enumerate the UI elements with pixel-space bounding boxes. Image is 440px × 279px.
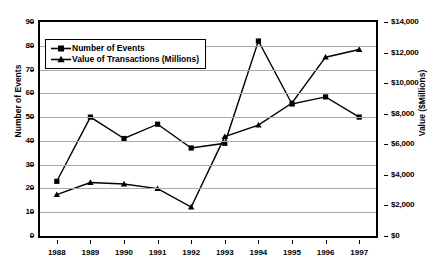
x-axis-tick-label: 1990	[115, 248, 133, 257]
y-axis-right-tick-mark	[384, 236, 388, 237]
x-axis-tick-label: 1993	[216, 248, 234, 257]
legend-item-number-of-events: Number of Events	[50, 43, 199, 54]
legend-item-value-of-transactions: Value of Transactions (Millions)	[50, 54, 199, 65]
x-axis-tick-label: 1996	[317, 248, 335, 257]
gridline	[40, 165, 376, 166]
y-axis-right-tick-mark	[384, 22, 388, 23]
data-point-marker	[255, 122, 261, 128]
x-axis-tick-mark	[124, 240, 125, 244]
data-point-marker	[323, 94, 328, 99]
y-axis-left-tick-mark	[30, 22, 34, 23]
x-axis-tick-mark	[326, 240, 327, 244]
y-axis-right-tick-mark	[384, 114, 388, 115]
x-axis-tick-mark	[158, 240, 159, 244]
y-axis-right-tick-label: $6,000	[391, 140, 414, 148]
square-marker-icon	[50, 43, 72, 54]
series-line-triangle	[57, 50, 359, 208]
y-axis-left-tick-mark	[30, 236, 34, 237]
x-axis-ticks: 1988198919901991199219931994199519961997	[38, 244, 378, 258]
gridline	[40, 212, 376, 213]
y-axis-right-tick-label: $0	[391, 232, 400, 240]
y-axis-left-tick-mark	[30, 46, 34, 47]
y-axis-right-tick-mark	[384, 83, 388, 84]
y-axis-right-tick-mark	[384, 205, 388, 206]
y-axis-right-tick-label: $8,000	[391, 110, 414, 118]
chart-legend: Number of Events Value of Transactions (…	[45, 39, 206, 69]
y-axis-left-ticks: 0102030405060708090	[0, 20, 34, 238]
data-point-marker	[155, 122, 160, 127]
y-axis-left-tick-mark	[30, 117, 34, 118]
triangle-marker-icon	[50, 54, 72, 65]
y-axis-right-ticks: $0$2,000$4,000$6,000$8,000$10,000$12,000…	[382, 20, 430, 238]
y-axis-right-tick-label: $2,000	[391, 201, 414, 209]
gridline	[40, 141, 376, 142]
data-point-marker	[356, 46, 362, 52]
y-axis-left-tick-mark	[30, 212, 34, 213]
gridline	[40, 117, 376, 118]
x-axis-tick-mark	[191, 240, 192, 244]
y-axis-left-tick-mark	[30, 165, 34, 166]
y-axis-right-tick-label: $14,000	[391, 18, 419, 26]
y-axis-left-tick-mark	[30, 70, 34, 71]
x-axis-tick-mark	[359, 240, 360, 244]
y-axis-left-tick-mark	[30, 93, 34, 94]
x-axis-tick-label: 1988	[48, 248, 66, 257]
y-axis-right-tick-label: $12,000	[391, 49, 419, 57]
x-axis-tick-label: 1995	[283, 248, 301, 257]
x-axis-tick-label: 1997	[350, 248, 368, 257]
x-axis-tick-mark	[258, 240, 259, 244]
y-axis-right-tick-mark	[384, 144, 388, 145]
x-axis-tick-mark	[90, 240, 91, 244]
x-axis-tick-mark	[225, 240, 226, 244]
y-axis-right-tick-label: $4,000	[391, 171, 414, 179]
y-axis-left-tick-mark	[30, 188, 34, 189]
legend-label-value-of-transactions: Value of Transactions (Millions)	[72, 54, 199, 65]
y-axis-right-tick-label: $10,000	[391, 79, 419, 87]
x-axis-tick-label: 1992	[182, 248, 200, 257]
x-axis-tick-label: 1991	[149, 248, 167, 257]
gridline	[40, 93, 376, 94]
y-axis-right-tick-mark	[384, 53, 388, 54]
data-point-marker	[189, 145, 194, 150]
y-axis-left-tick-mark	[30, 141, 34, 142]
chart-container: Number of Events Value ($Millions) 01020…	[0, 0, 440, 279]
legend-label-number-of-events: Number of Events	[72, 43, 145, 54]
data-point-marker	[54, 179, 59, 184]
x-axis-tick-label: 1989	[81, 248, 99, 257]
x-axis-tick-mark	[57, 240, 58, 244]
x-axis-tick-mark	[292, 240, 293, 244]
x-axis-tick-label: 1994	[249, 248, 267, 257]
y-axis-right-tick-mark	[384, 175, 388, 176]
data-point-marker	[188, 204, 194, 210]
gridline	[40, 188, 376, 189]
data-point-marker	[256, 38, 261, 43]
gridline	[40, 70, 376, 71]
